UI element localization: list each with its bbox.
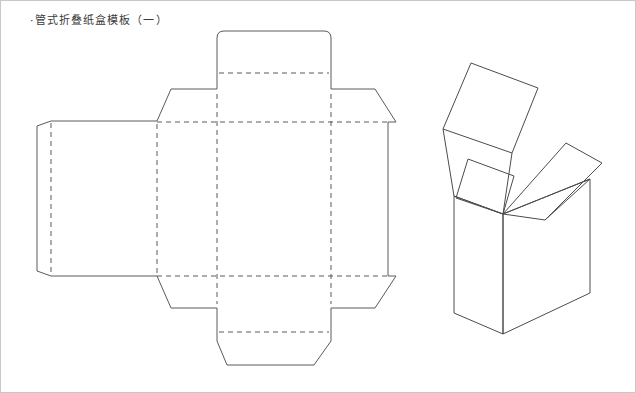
box-top-right-edge bbox=[503, 179, 590, 214]
assembled-box-group bbox=[443, 63, 602, 334]
right-dust-flap-edge bbox=[545, 179, 590, 220]
page-canvas: ·管式折叠纸盒模板（一） bbox=[0, 0, 636, 393]
box-front-left-face bbox=[454, 196, 503, 334]
back-lid-hinge-left bbox=[443, 129, 454, 196]
dieline-group bbox=[37, 31, 396, 365]
back-lid-flap bbox=[443, 63, 538, 153]
illustration-artboard bbox=[1, 1, 636, 393]
front-dust-flap bbox=[456, 159, 514, 214]
box-front-right-face bbox=[503, 179, 590, 334]
